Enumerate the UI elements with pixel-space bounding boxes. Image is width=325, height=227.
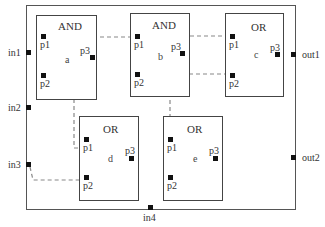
pin-label-p1: p1 [134,40,144,50]
pin-label-p2: p2 [229,79,239,89]
port-in1[interactable] [26,50,31,55]
pin-p3[interactable] [213,156,218,161]
pin-label-p2: p2 [83,181,93,191]
pin-label-p1: p1 [167,143,177,153]
port-label-in4: in4 [143,213,156,223]
gate-type-label: OR [187,123,202,135]
port-label-out2: out2 [302,153,320,163]
block-name-label: b [158,51,163,62]
block-e-or[interactable]: OR e p1 p2 p3 [163,116,223,201]
gate-type-label: OR [103,123,118,135]
port-in4[interactable] [148,205,153,210]
pin-label-p3: p3 [80,46,90,56]
wire-a-p3-to-b-p1 [91,37,133,56]
pin-p3[interactable] [90,55,95,60]
port-label-in2: in2 [8,103,21,113]
gate-type-label: AND [152,19,176,31]
port-label-in3: in3 [8,160,21,170]
port-in2[interactable] [26,105,31,110]
pin-label-p1: p1 [83,143,93,153]
block-name-label: c [254,49,258,60]
port-in3[interactable] [26,162,31,167]
pin-label-p2: p2 [167,181,177,191]
pin-label-p2: p2 [134,78,144,88]
block-b-and[interactable]: AND b p1 p2 p3 [130,13,190,97]
wire-in3-to-d-p2 [30,167,84,180]
port-label-in1: in1 [8,48,21,58]
port-label-out1: out1 [302,50,320,60]
block-d-or[interactable]: OR d p1 p2 p3 [79,116,139,201]
block-a-and[interactable]: AND a p1 p2 p3 [36,15,97,100]
pin-label-p2: p2 [40,79,50,89]
pin-label-p3: p3 [270,43,280,53]
pin-p3[interactable] [129,156,134,161]
block-name-label: e [193,153,197,164]
pin-label-p3: p3 [209,146,219,156]
pin-label-p3: p3 [125,146,135,156]
port-out2[interactable] [291,155,296,160]
block-c-or[interactable]: OR c p1 p2 p3 [225,13,284,97]
port-out1[interactable] [291,52,296,57]
pin-label-p1: p1 [40,40,50,50]
block-name-label: d [108,153,113,164]
pin-label-p3: p3 [171,42,181,52]
gate-type-label: OR [251,21,266,33]
pin-label-p1: p1 [229,40,239,50]
block-name-label: a [65,54,69,65]
gate-type-label: AND [58,20,82,32]
